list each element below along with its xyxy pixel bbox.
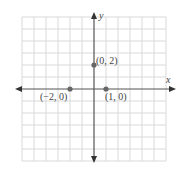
x-axis-left-arrow-icon <box>15 86 22 92</box>
x-axis-label: x <box>166 75 170 85</box>
axes <box>15 12 176 163</box>
data-point <box>67 86 72 91</box>
x-axis-right-arrow-icon <box>169 86 176 92</box>
y-axis-label: y <box>99 11 103 21</box>
y-axis-up-arrow-icon <box>91 12 97 19</box>
point-label-neg2-0: (−2, 0) <box>40 92 67 102</box>
coordinate-plane <box>0 0 179 169</box>
point-label-0-2: (0, 2) <box>96 56 118 66</box>
y-axis-down-arrow-icon <box>91 156 97 163</box>
point-label-1-0: (1, 0) <box>105 92 127 102</box>
